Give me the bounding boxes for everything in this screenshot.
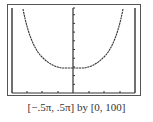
window-caption: [−.5π, .5π] by [0, 100] [0, 101, 153, 113]
